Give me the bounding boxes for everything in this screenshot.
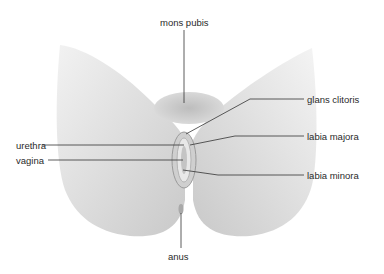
label-labia-minora: labia minora xyxy=(307,170,359,181)
label-glans-clitoris: glans clitoris xyxy=(307,94,359,105)
label-vagina: vagina xyxy=(16,155,44,166)
label-anus: anus xyxy=(168,251,189,262)
label-labia-majora: labia majora xyxy=(307,131,359,142)
label-urethra: urethra xyxy=(16,140,46,151)
label-mons-pubis: mons pubis xyxy=(160,17,209,28)
anatomy-diagram: mons pubis glans clitoris labia majora u… xyxy=(0,0,384,274)
